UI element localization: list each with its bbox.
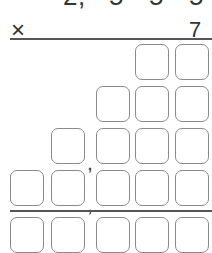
answer-box[interactable]	[135, 128, 169, 164]
result-box[interactable]	[175, 217, 209, 253]
answer-box[interactable]	[135, 44, 169, 80]
result-box[interactable]	[10, 217, 44, 253]
answer-box[interactable]	[135, 86, 169, 122]
answer-box[interactable]	[96, 128, 130, 164]
multiplicand-digit: 5	[109, 0, 123, 9]
result-box[interactable]	[51, 217, 85, 253]
answer-box[interactable]	[135, 170, 169, 206]
result-rule	[10, 210, 212, 212]
top-rule	[10, 38, 212, 40]
result-box[interactable]	[135, 217, 169, 253]
answer-box[interactable]	[51, 128, 85, 164]
multiplicand-digit: 5	[149, 0, 163, 9]
result-box[interactable]	[96, 217, 130, 253]
answer-box[interactable]	[175, 128, 209, 164]
answer-box[interactable]	[175, 170, 209, 206]
answer-box[interactable]	[96, 170, 130, 206]
answer-box[interactable]	[175, 86, 209, 122]
answer-box[interactable]	[175, 44, 209, 80]
thousands-comma: ,	[88, 160, 92, 170]
multiplicand-digit: 2	[63, 0, 77, 9]
answer-box[interactable]	[10, 170, 44, 206]
answer-box[interactable]	[96, 86, 130, 122]
answer-box[interactable]	[51, 170, 85, 206]
multiplicand-comma: ,	[78, 0, 85, 9]
multiplicand-digit: 5	[189, 0, 203, 9]
